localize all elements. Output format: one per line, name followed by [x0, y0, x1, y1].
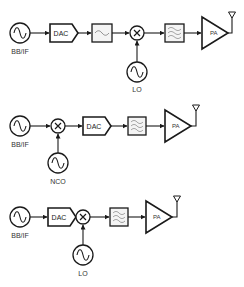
bbif-source-icon — [10, 116, 30, 136]
dac-label: DAC — [87, 123, 102, 130]
antenna-icon — [228, 12, 236, 33]
bbif-source-icon — [10, 207, 30, 227]
mixer-icon — [130, 26, 144, 40]
power-amplifier-icon: PA — [202, 17, 228, 49]
chain-2: BB/IF NCO DAC PA — [10, 105, 200, 185]
lo-label: LO — [78, 270, 88, 277]
power-amplifier-icon: PA — [146, 201, 172, 233]
lowpass-filter-icon — [92, 24, 112, 42]
dac-block: DAC — [48, 208, 76, 226]
mixer-icon — [51, 119, 65, 133]
pa-label: PA — [210, 30, 218, 36]
pa-label: PA — [172, 123, 180, 129]
bbif-label: BB/IF — [11, 232, 29, 239]
chain-1: BB/IF DAC LO — [10, 12, 236, 93]
mixer-icon — [76, 210, 90, 224]
nco-label: NCO — [50, 178, 66, 185]
bbif-source-icon — [10, 23, 30, 43]
bandpass-filter-icon — [128, 117, 146, 135]
nco-oscillator-icon — [48, 153, 68, 173]
bandpass-filter-icon — [110, 208, 128, 226]
chain-3: BB/IF DAC LO PA — [10, 196, 181, 277]
lo-label: LO — [132, 86, 142, 93]
dac-label: DAC — [54, 30, 69, 37]
lo-oscillator-icon — [73, 245, 93, 265]
dac-label: DAC — [52, 214, 67, 221]
bandpass-filter-icon — [165, 24, 184, 42]
power-amplifier-icon: PA — [165, 110, 191, 142]
dac-block: DAC — [83, 117, 111, 135]
pa-label: PA — [153, 214, 161, 220]
bbif-label: BB/IF — [11, 48, 29, 55]
dac-block: DAC — [50, 24, 78, 42]
lo-oscillator-icon — [127, 62, 147, 82]
bbif-label: BB/IF — [11, 141, 29, 148]
antenna-icon — [172, 196, 181, 217]
antenna-icon — [191, 105, 200, 126]
diagram-canvas: BB/IF DAC LO — [0, 0, 244, 287]
